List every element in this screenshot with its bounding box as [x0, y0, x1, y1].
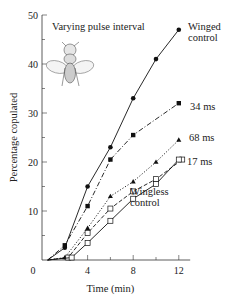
data-point — [108, 194, 113, 198]
data-point — [131, 96, 136, 101]
series-label: Winged — [188, 21, 222, 32]
data-point — [108, 145, 113, 150]
data-point — [85, 231, 90, 236]
x-axis-label: Time (min) — [87, 283, 135, 295]
data-point — [85, 240, 90, 245]
data-point — [131, 133, 135, 137]
series-label: 17 ms — [187, 156, 212, 167]
labels-group: Wingedcontrol34 ms68 ms17 msWinglesscont… — [130, 21, 222, 208]
data-point — [63, 243, 67, 247]
x-tick-label: 4 — [85, 265, 90, 276]
data-point — [176, 137, 181, 141]
series-34-ms — [48, 101, 181, 260]
series-17-ms — [48, 157, 185, 260]
y-axis-label: Percentage copulated — [8, 92, 19, 182]
data-point — [108, 218, 113, 223]
y-tick-label: 30 — [28, 108, 38, 119]
series-label: Wingless — [130, 186, 169, 197]
data-point — [108, 157, 112, 161]
y-tick-label: 40 — [28, 59, 38, 70]
data-point — [154, 57, 159, 62]
data-point — [85, 184, 90, 189]
y-tick-label: 10 — [28, 206, 38, 217]
x-tick-label: 8 — [131, 265, 136, 276]
series-label: 68 ms — [189, 132, 214, 143]
series-label: 34 ms — [190, 101, 215, 112]
axes: 102030405004812Time (min)Percentage copu… — [8, 10, 190, 295]
series-label: control — [188, 32, 218, 43]
series-wingless-control — [48, 157, 182, 260]
data-point — [85, 204, 89, 208]
chart: 102030405004812Time (min)Percentage copu… — [0, 0, 232, 297]
series-label: control — [130, 197, 160, 208]
data-point — [177, 101, 181, 105]
chart-title: Varying pulse interval — [52, 21, 145, 32]
y-tick-label: 50 — [28, 10, 38, 21]
series-68-ms — [48, 137, 182, 260]
data-point — [176, 157, 181, 162]
x-tick-label: 12 — [174, 265, 184, 276]
data-point — [154, 177, 159, 182]
data-point — [108, 206, 113, 211]
data-point — [69, 255, 74, 260]
x-tick-label: 0 — [31, 265, 36, 276]
y-tick-label: 20 — [28, 157, 38, 168]
data-point — [177, 27, 182, 32]
fly-icon — [45, 42, 95, 86]
